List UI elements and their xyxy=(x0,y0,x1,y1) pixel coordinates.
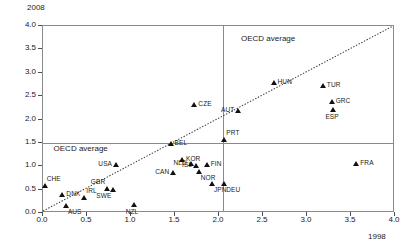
y-tick-label: 0.5 xyxy=(6,184,36,193)
data-point-label: GBR xyxy=(91,178,105,185)
data-point-label: CHE xyxy=(47,175,61,182)
triangle-marker-icon xyxy=(329,99,335,104)
y-tick-label: 4.0 xyxy=(6,20,36,29)
y-tick-label: 3.0 xyxy=(6,67,36,76)
data-point-label: SWE xyxy=(96,192,111,199)
triangle-marker-icon xyxy=(353,161,359,166)
data-point-label: ESP xyxy=(325,113,338,120)
oecd-average-horizontal-label: OECD average xyxy=(54,144,108,153)
data-point-label: GRC xyxy=(336,97,351,104)
x-tick-label: 2.0 xyxy=(212,215,223,224)
data-point-label: IRL xyxy=(86,187,96,194)
triangle-marker-icon xyxy=(271,80,277,85)
x-tick-label: 4.0 xyxy=(388,215,399,224)
data-point-label: FRA xyxy=(360,159,373,166)
data-point-label: CZE xyxy=(198,100,211,107)
triangle-marker-icon xyxy=(113,162,119,167)
triangle-marker-icon xyxy=(104,186,110,191)
x-tick-label: 3.0 xyxy=(300,215,311,224)
y-tick-label: 1.0 xyxy=(6,160,36,169)
triangle-marker-icon xyxy=(59,192,65,197)
data-point-label: FIN xyxy=(211,160,222,167)
y-tick-label: 3.5 xyxy=(6,43,36,52)
oecd-average-vertical-label: OECD average xyxy=(241,34,295,43)
triangle-marker-icon xyxy=(204,162,210,167)
triangle-marker-icon xyxy=(42,183,48,188)
data-point-label: TUR xyxy=(327,81,341,88)
triangle-marker-icon xyxy=(320,83,326,88)
data-point-label: DNK xyxy=(66,190,80,197)
data-point-label: USA xyxy=(98,160,112,167)
x-tick-label: 2.5 xyxy=(256,215,267,224)
data-point-label: NZL xyxy=(126,208,139,215)
data-point-label: BEL xyxy=(175,139,188,146)
scatter-chart: 2008 1998 0.00.51.01.52.02.53.03.54.0 0.… xyxy=(0,0,404,248)
x-axis-title: 1998 xyxy=(368,232,386,241)
triangle-marker-icon xyxy=(81,195,87,200)
data-point-label: PRT xyxy=(226,129,239,136)
data-point-label: CAN xyxy=(155,168,169,175)
x-tick-label: 0.5 xyxy=(80,215,91,224)
data-point-label: ISL xyxy=(182,161,192,168)
data-point-label: AUT xyxy=(221,106,234,113)
triangle-marker-icon xyxy=(168,141,174,146)
triangle-marker-icon xyxy=(193,163,199,168)
triangle-marker-icon xyxy=(221,137,227,142)
triangle-marker-icon xyxy=(235,108,241,113)
triangle-marker-icon xyxy=(191,102,197,107)
y-tick-label: 2.5 xyxy=(6,90,36,99)
y-tick-label: 1.5 xyxy=(6,137,36,146)
triangle-marker-icon xyxy=(131,202,137,207)
y-tick-label: 0.0 xyxy=(6,207,36,216)
data-point-label: AUS xyxy=(68,208,82,215)
x-tick-label: 0.0 xyxy=(36,215,47,224)
x-tick-label: 1.0 xyxy=(124,215,135,224)
data-point-label: DEU xyxy=(226,186,240,193)
y-axis-title: 2008 xyxy=(27,3,45,12)
data-point-label: HUN xyxy=(278,78,292,85)
y-tick-label: 2.0 xyxy=(6,114,36,123)
x-tick-label: 3.5 xyxy=(344,215,355,224)
triangle-marker-icon xyxy=(330,107,336,112)
data-point-label: JPN xyxy=(214,186,227,193)
x-tick-label: 1.5 xyxy=(168,215,179,224)
triangle-marker-icon xyxy=(170,170,176,175)
plot-area: OECD averageOECD average CHEDNKAUSIRLGBR… xyxy=(42,25,394,212)
data-point-label: NOR xyxy=(201,174,216,181)
